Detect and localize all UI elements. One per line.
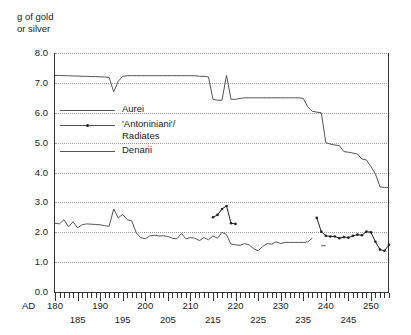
x-axis-tick bbox=[96, 293, 97, 298]
x-axis-tick bbox=[132, 293, 133, 298]
data-point-marker bbox=[379, 248, 382, 251]
x-axis-tick bbox=[82, 293, 83, 298]
x-axis-tick bbox=[245, 293, 246, 298]
x-axis-tick bbox=[276, 293, 277, 298]
legend-swatch-line-with-marker bbox=[60, 125, 115, 126]
x-axis-tick bbox=[335, 293, 336, 298]
x-axis-tick bbox=[249, 293, 250, 298]
x-axis-tick bbox=[290, 293, 291, 298]
data-point-marker bbox=[356, 233, 359, 236]
x-axis-tick-label: 240 bbox=[311, 300, 341, 311]
data-point-marker bbox=[234, 223, 237, 226]
data-point-marker bbox=[329, 235, 332, 238]
data-point-marker bbox=[221, 208, 224, 211]
x-axis-tick bbox=[127, 293, 128, 298]
x-axis-tick-label: 210 bbox=[175, 300, 205, 311]
x-axis-tick bbox=[114, 293, 115, 298]
x-axis-tick bbox=[78, 293, 79, 301]
x-axis-tick bbox=[154, 293, 155, 298]
x-axis-tick bbox=[87, 293, 88, 298]
data-point-marker bbox=[325, 235, 328, 238]
y-axis-tick-label: 3.0 bbox=[22, 196, 48, 207]
series-line-denarii bbox=[55, 209, 312, 251]
x-axis-tick-label: 185 bbox=[63, 314, 93, 325]
x-axis-tick bbox=[272, 293, 273, 298]
series-lines bbox=[55, 53, 389, 292]
legend-swatch-line bbox=[60, 110, 115, 111]
data-point-marker bbox=[225, 205, 228, 208]
x-axis-tick bbox=[217, 293, 218, 298]
x-axis-tick bbox=[91, 293, 92, 298]
data-point-marker bbox=[361, 234, 364, 237]
legend-swatch-line bbox=[60, 151, 115, 152]
x-axis-tick bbox=[163, 293, 164, 298]
x-axis-tick bbox=[186, 293, 187, 298]
x-axis-tick bbox=[294, 293, 295, 298]
y-axis-tick-label: 4.0 bbox=[22, 167, 48, 178]
x-axis-tick-label: 245 bbox=[333, 314, 363, 325]
x-axis-tick-label: 215 bbox=[198, 314, 228, 325]
x-axis-tick bbox=[339, 293, 340, 298]
data-point-marker bbox=[320, 230, 323, 233]
x-axis-tick bbox=[73, 293, 74, 298]
data-point-marker bbox=[388, 244, 391, 247]
x-axis-tick bbox=[303, 293, 304, 301]
data-point-marker bbox=[374, 241, 377, 244]
series-line-aurei bbox=[55, 75, 389, 187]
x-axis-tick bbox=[109, 293, 110, 298]
x-axis-tick bbox=[227, 293, 228, 298]
x-axis-tick bbox=[136, 293, 137, 298]
x-axis-tick bbox=[353, 293, 354, 298]
x-axis-tick bbox=[285, 293, 286, 298]
data-point-marker bbox=[347, 236, 350, 239]
x-axis-tick bbox=[177, 293, 178, 298]
x-axis-tick bbox=[357, 293, 358, 298]
data-point-marker bbox=[352, 235, 355, 238]
data-point-marker bbox=[212, 216, 215, 219]
x-axis-tick-label: 180 bbox=[40, 300, 70, 311]
data-point-marker bbox=[383, 249, 386, 252]
x-axis-tick bbox=[263, 293, 264, 298]
x-axis-tick bbox=[195, 293, 196, 298]
x-axis-tick bbox=[118, 293, 119, 298]
data-point-marker bbox=[216, 214, 219, 217]
x-axis-tick bbox=[208, 293, 209, 298]
x-axis-tick-label: 230 bbox=[266, 300, 296, 311]
x-axis-tick bbox=[308, 293, 309, 298]
x-axis-era-label: AD bbox=[22, 300, 35, 311]
x-axis-tick bbox=[204, 293, 205, 298]
data-point-marker bbox=[334, 235, 337, 238]
x-axis-tick bbox=[60, 293, 61, 298]
x-axis-tick bbox=[362, 293, 363, 298]
data-point-marker bbox=[343, 236, 346, 239]
legend-item-label: Denarii bbox=[122, 144, 152, 156]
data-point-marker bbox=[338, 237, 341, 240]
data-point-marker bbox=[230, 222, 233, 225]
x-axis-tick bbox=[389, 293, 390, 298]
y-axis-tick-label: 2.0 bbox=[22, 226, 48, 237]
y-axis-tick-label: 5.0 bbox=[22, 137, 48, 148]
x-axis-tick bbox=[384, 293, 385, 298]
x-axis-tick-label: 250 bbox=[356, 300, 386, 311]
y-axis-tick-label: 6.0 bbox=[22, 107, 48, 118]
x-axis-tick bbox=[312, 293, 313, 298]
x-axis-tick bbox=[199, 293, 200, 298]
y-axis-tick-label: 1.0 bbox=[22, 256, 48, 267]
data-point-marker bbox=[315, 217, 318, 220]
x-axis-tick bbox=[150, 293, 151, 298]
x-axis-tick bbox=[258, 293, 259, 301]
x-axis-tick bbox=[123, 293, 124, 301]
x-axis-tick-label: 220 bbox=[221, 300, 251, 311]
x-axis-tick bbox=[267, 293, 268, 298]
x-axis-tick bbox=[69, 293, 70, 298]
x-axis-tick bbox=[348, 293, 349, 301]
x-axis-tick bbox=[141, 293, 142, 298]
y-axis-tick-label: 0.0 bbox=[22, 286, 48, 297]
x-axis-tick bbox=[231, 293, 232, 298]
x-axis-tick bbox=[375, 293, 376, 298]
x-axis-tick bbox=[181, 293, 182, 298]
x-axis-tick bbox=[159, 293, 160, 298]
x-axis-tick-label: 190 bbox=[85, 300, 115, 311]
y-axis-tick-label: 8.0 bbox=[22, 47, 48, 58]
x-axis-tick bbox=[366, 293, 367, 298]
